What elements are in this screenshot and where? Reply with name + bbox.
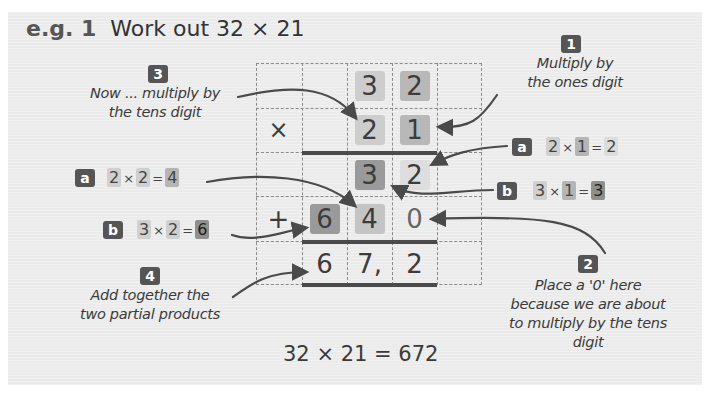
step-3a-badge: a <box>75 169 95 187</box>
step-2-badge: 2 <box>578 255 598 273</box>
step-3b-badge: b <box>103 221 123 239</box>
example-number: e.g. 1 <box>26 16 96 41</box>
multiplication-grid: 3 2 × 2 1 3 2 + 6 4 0 6 7, 2 <box>256 63 482 285</box>
step-3-note: Now ... multiply by the tens digit <box>70 84 240 122</box>
step-1b-equation: 3×1=3 <box>533 181 605 200</box>
multiplier-tens: 2 <box>347 108 392 152</box>
example-title: e.g. 1Work out 32 × 21 <box>26 16 305 41</box>
underline-rule <box>302 283 437 287</box>
partial-product-2-hundreds: 6 <box>302 197 347 241</box>
example-question: Work out 32 × 21 <box>110 16 304 41</box>
plus-sign: + <box>256 197 301 241</box>
step-1-badge: 1 <box>561 35 581 53</box>
step-1b-badge: b <box>497 182 517 200</box>
answer-ones: 2 <box>392 242 437 286</box>
step-4-note: Add together the two partial products <box>55 286 245 324</box>
partial-product-2-tens: 4 <box>347 197 392 241</box>
step-4-badge: 4 <box>140 267 160 285</box>
step-1-note: Multiply by the ones digit <box>500 54 650 92</box>
answer-tens: 7, <box>347 242 392 286</box>
step-2-note: Place a '0' here because we are about to… <box>488 276 688 352</box>
step-3b-equation: 3×2=6 <box>137 220 209 239</box>
partial-product-1-ones: 2 <box>392 153 437 197</box>
multiplicand-ones: 2 <box>392 64 437 108</box>
answer-hundreds: 6 <box>302 242 347 286</box>
placeholder-zero: 0 <box>392 197 437 241</box>
step-3a-equation: 2×2=4 <box>107 168 179 187</box>
top-strip <box>0 0 711 12</box>
final-result: 32 × 21 = 672 <box>283 342 438 366</box>
multiplicand-tens: 3 <box>347 64 392 108</box>
step-1a-equation: 2×1=2 <box>546 137 618 156</box>
partial-product-1-tens: 3 <box>347 153 392 197</box>
step-1a-badge: a <box>512 138 532 156</box>
grid-line <box>437 63 438 285</box>
step-3-badge: 3 <box>148 65 168 83</box>
times-sign: × <box>256 108 301 152</box>
multiplier-ones: 1 <box>392 108 437 152</box>
